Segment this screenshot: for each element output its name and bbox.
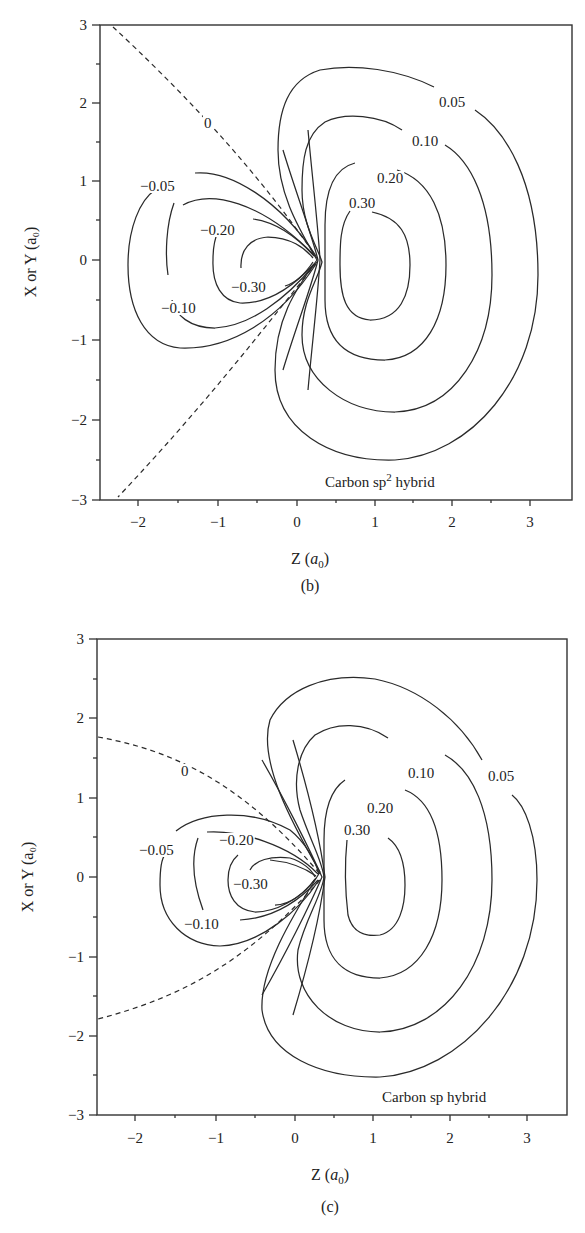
panel-c-contours bbox=[98, 677, 537, 1077]
xtick-3: 3 bbox=[526, 514, 534, 530]
xtick-1: 1 bbox=[371, 514, 379, 530]
label-neg-020: −0.20 bbox=[200, 222, 235, 238]
label-pos-020: 0.20 bbox=[377, 170, 403, 186]
ytick-neg1: −1 bbox=[71, 332, 87, 348]
contour-near-nucleus-2 bbox=[293, 740, 325, 1015]
contour-pos-010 bbox=[296, 726, 492, 1032]
panel-c-x-axis-label: Z (a0) bbox=[311, 1166, 349, 1186]
panel-c-x-axis: −2 −1 0 1 2 3 bbox=[127, 1115, 531, 1146]
ytick-neg2: −2 bbox=[71, 412, 87, 428]
label-neg-010: −0.10 bbox=[161, 300, 196, 316]
panel-c-sp-hybrid-plot: 0 −0.05 −0.20 −0.30 −0.10 0.10 0.05 0.20… bbox=[19, 631, 567, 1216]
ytick-2: 2 bbox=[77, 710, 85, 726]
panel-b-y-axis: 3 2 1 0 −1 −2 −3 bbox=[71, 17, 100, 508]
ytick-3: 3 bbox=[77, 631, 85, 647]
label-neg-005: −0.05 bbox=[140, 178, 175, 194]
ytick-neg3: −3 bbox=[71, 492, 87, 508]
xtick-0: 0 bbox=[293, 514, 301, 530]
ytick-0: 0 bbox=[80, 252, 88, 268]
contour-pos-020 bbox=[325, 163, 446, 360]
contour-neg-010-left bbox=[166, 203, 174, 275]
panel-b-x-axis: −2 −1 0 1 2 3 bbox=[130, 500, 534, 530]
panel-b-caption: (b) bbox=[301, 577, 320, 595]
contour-pos-030 bbox=[346, 838, 405, 935]
contour-zero-nodal-lower bbox=[118, 262, 317, 497]
label-pos-010: 0.10 bbox=[408, 765, 434, 781]
panel-c-caption: (c) bbox=[321, 1198, 339, 1216]
panel-c-y-axis-label: X or Y (a₀) bbox=[19, 842, 37, 913]
ytick-1: 1 bbox=[77, 790, 85, 806]
label-pos-030: 0.30 bbox=[349, 195, 375, 211]
xtick-2: 2 bbox=[446, 1130, 454, 1146]
ytick-neg3: −3 bbox=[68, 1107, 84, 1123]
panel-b-y-axis-label: X or Y (a₀) bbox=[22, 227, 40, 298]
label-pos-030: 0.30 bbox=[344, 822, 370, 838]
panel-c-frame bbox=[97, 639, 567, 1115]
label-neg-030: −0.30 bbox=[231, 279, 266, 295]
label-neg-005: −0.05 bbox=[139, 842, 174, 858]
panel-b-sp2-hybrid-plot: 0 −0.05 −0.20 −0.30 −0.10 0.05 0.10 0.20… bbox=[22, 17, 572, 595]
contour-near-nucleus-1 bbox=[262, 760, 322, 995]
label-pos-020: 0.20 bbox=[367, 800, 393, 816]
panel-c-contour-labels: 0 −0.05 −0.20 −0.30 −0.10 0.10 0.05 0.20… bbox=[138, 763, 515, 932]
xtick-neg2: −2 bbox=[130, 514, 146, 530]
ytick-1: 1 bbox=[80, 173, 88, 189]
label-pos-005: 0.05 bbox=[488, 768, 514, 784]
figure: 0 −0.05 −0.20 −0.30 −0.10 0.05 0.10 0.20… bbox=[0, 0, 585, 1233]
xtick-3: 3 bbox=[523, 1130, 531, 1146]
panel-b-annotation: Carbon sp2 hybrid bbox=[325, 471, 435, 490]
xtick-0: 0 bbox=[291, 1130, 299, 1146]
panel-c-annotation: Carbon sp hybrid bbox=[382, 1089, 487, 1105]
contour-pos-010 bbox=[302, 116, 492, 412]
ytick-neg2: −2 bbox=[68, 1028, 84, 1044]
panel-b-x-axis-label: Z (a0) bbox=[291, 550, 329, 570]
panel-b-contours bbox=[113, 27, 538, 497]
contour-pos-030 bbox=[340, 211, 410, 320]
xtick-1: 1 bbox=[369, 1130, 377, 1146]
xtick-neg1: −1 bbox=[208, 1130, 224, 1146]
xtick-neg1: −1 bbox=[210, 514, 226, 530]
label-neg-010: −0.10 bbox=[184, 916, 219, 932]
label-neg-030: −0.30 bbox=[233, 876, 268, 892]
ytick-0: 0 bbox=[77, 869, 85, 885]
label-zero: 0 bbox=[181, 763, 189, 779]
ytick-2: 2 bbox=[80, 95, 88, 111]
xtick-2: 2 bbox=[448, 514, 456, 530]
ytick-3: 3 bbox=[80, 17, 88, 33]
contour-pos-005 bbox=[262, 677, 537, 1077]
label-neg-020: −0.20 bbox=[219, 832, 254, 848]
label-zero: 0 bbox=[204, 115, 212, 131]
panel-c-y-axis: 3 2 1 0 −1 −2 −3 bbox=[68, 631, 97, 1123]
label-pos-005: 0.05 bbox=[439, 94, 465, 110]
ytick-neg1: −1 bbox=[68, 949, 84, 965]
xtick-neg2: −2 bbox=[127, 1130, 143, 1146]
label-pos-010: 0.10 bbox=[412, 133, 438, 149]
panel-b-frame bbox=[100, 25, 572, 500]
